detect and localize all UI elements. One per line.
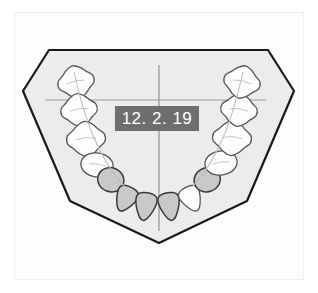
dental-arch-diagram	[0, 0, 318, 293]
dental-chart-app: 12. 2. 19	[0, 0, 318, 293]
date-label: 12. 2. 19	[115, 106, 199, 131]
